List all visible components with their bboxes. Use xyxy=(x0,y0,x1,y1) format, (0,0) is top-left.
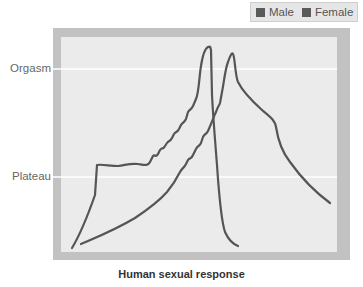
female-curve xyxy=(81,53,330,244)
male-curve xyxy=(72,47,238,248)
chart-curves xyxy=(0,0,363,287)
chart-title: Human sexual response xyxy=(0,268,363,280)
